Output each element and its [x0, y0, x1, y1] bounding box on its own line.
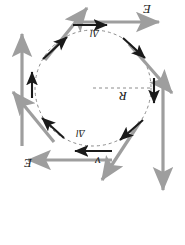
gray-vector-up-left-2 — [13, 92, 54, 142]
label-radius: R — [119, 90, 127, 103]
tangent-vector-top-left — [43, 37, 67, 59]
tangent-vector-top-right — [123, 38, 145, 58]
label-electric-field-bottom: E — [24, 157, 32, 170]
label-electric-field-top: E — [143, 3, 151, 16]
tangent-vector-bot-left — [42, 118, 64, 138]
label-delta-l-top: Δl — [90, 28, 99, 38]
label-delta-l-bottom: Δl — [76, 128, 85, 138]
label-velocity: v — [95, 155, 101, 168]
physics-figure-canvas: E E R v Δl Δl — [0, 0, 185, 245]
